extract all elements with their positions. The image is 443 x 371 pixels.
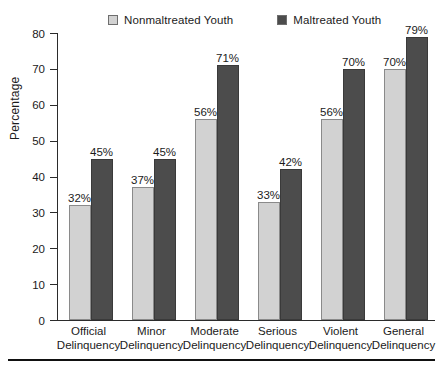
legend-entry-nonmaltreated-youth: Nonmaltreated Youth <box>108 14 233 26</box>
figure-bottom-rule <box>8 359 435 361</box>
y-axis-tick-label-10: 10 <box>32 279 45 291</box>
y-axis-tick-30: 30 <box>50 212 57 213</box>
legend-swatch-nonmaltreated-youth <box>108 15 118 25</box>
y-axis-tick-10: 10 <box>50 284 57 285</box>
chart-legend: Nonmaltreated Youth Maltreated Youth <box>108 12 381 28</box>
x-axis-category-line1: Serious <box>258 325 297 337</box>
x-axis-category-line2: Delinquency <box>116 339 187 353</box>
bar: 37% <box>132 187 154 320</box>
figure-bar-chart: Nonmaltreated Youth Maltreated Youth Per… <box>0 0 443 371</box>
y-axis-tick-40: 40 <box>50 177 57 178</box>
y-axis-tick-label-70: 70 <box>32 63 45 75</box>
bar: 33% <box>258 202 280 320</box>
bar-value-label: 45% <box>90 146 113 158</box>
bar: 71% <box>217 65 239 320</box>
bar: 56% <box>195 119 217 320</box>
x-axis-category-label: ViolentDelinquency <box>305 325 376 352</box>
x-axis-category-line1: Moderate <box>190 325 239 337</box>
x-axis-category-label: OfficialDelinquency <box>53 325 124 352</box>
y-axis-tick-60: 60 <box>50 105 57 106</box>
bar-value-label: 33% <box>257 189 280 201</box>
bar-group: 32%45% <box>69 33 113 320</box>
bar-value-label: 42% <box>279 156 302 168</box>
bar-group: 33%42% <box>258 33 302 320</box>
y-axis-tick-label-80: 80 <box>32 28 45 40</box>
bar-value-label: 70% <box>383 56 406 68</box>
y-axis-tick-label-20: 20 <box>32 243 45 255</box>
y-axis-tick-80: 80 <box>50 33 57 34</box>
x-axis-category-line2: Delinquency <box>305 339 376 353</box>
x-axis-category-label: GeneralDelinquency <box>368 325 439 352</box>
bar-value-label: 56% <box>320 106 343 118</box>
y-axis-title: Percentage <box>8 77 22 140</box>
bar-value-label: 71% <box>216 52 239 64</box>
x-axis-category-line1: Official <box>71 325 106 337</box>
bar: 79% <box>406 37 428 320</box>
legend-entry-maltreated-youth: Maltreated Youth <box>277 14 381 26</box>
x-axis-category-line1: Minor <box>137 325 166 337</box>
y-axis-tick-label-60: 60 <box>32 99 45 111</box>
x-axis-category-line2: Delinquency <box>179 339 250 353</box>
bar-value-label: 32% <box>68 192 91 204</box>
bar-value-label: 37% <box>131 174 154 186</box>
bar: 56% <box>321 119 343 320</box>
bar: 70% <box>384 69 406 320</box>
y-axis-tick-label-50: 50 <box>32 135 45 147</box>
y-axis-tick-20: 20 <box>50 248 57 249</box>
bar-value-label: 79% <box>405 24 428 36</box>
x-axis-category-label: MinorDelinquency <box>116 325 187 352</box>
bar-group: 56%70% <box>321 33 365 320</box>
bar-value-label: 45% <box>153 146 176 158</box>
y-axis-tick-50: 50 <box>50 141 57 142</box>
legend-label-nonmaltreated-youth: Nonmaltreated Youth <box>124 14 233 26</box>
y-axis-tick-label-0: 0 <box>39 315 45 327</box>
y-axis-tick-70: 70 <box>50 69 57 70</box>
x-axis-line <box>57 320 435 321</box>
x-axis-category-label: SeriousDelinquency <box>242 325 313 352</box>
bar: 45% <box>91 159 113 320</box>
bar-value-label: 70% <box>342 56 365 68</box>
bar: 32% <box>69 205 91 320</box>
x-axis-category-label: ModerateDelinquency <box>179 325 250 352</box>
x-axis-category-line1: General <box>383 325 424 337</box>
x-axis-category-line1: Violent <box>323 325 358 337</box>
y-axis-line <box>57 33 58 320</box>
bar: 45% <box>154 159 176 320</box>
bar-group: 37%45% <box>132 33 176 320</box>
bar-group: 70%79% <box>384 33 428 320</box>
x-axis-category-line2: Delinquency <box>53 339 124 353</box>
y-axis-tick-label-30: 30 <box>32 207 45 219</box>
bar: 70% <box>343 69 365 320</box>
x-axis-category-line2: Delinquency <box>242 339 313 353</box>
legend-swatch-maltreated-youth <box>277 15 287 25</box>
y-axis-tick-label-40: 40 <box>32 171 45 183</box>
y-axis-tick-0: 0 <box>50 320 57 321</box>
plot-area: 01020304050607080 32%45%37%45%56%71%33%4… <box>57 33 435 320</box>
bar-value-label: 56% <box>194 106 217 118</box>
bar-group: 56%71% <box>195 33 239 320</box>
legend-label-maltreated-youth: Maltreated Youth <box>293 14 381 26</box>
x-axis-category-line2: Delinquency <box>368 339 439 353</box>
bar: 42% <box>280 169 302 320</box>
